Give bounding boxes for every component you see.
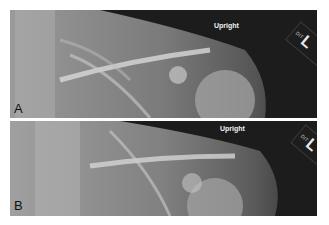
shoulder-xray-image-a [10,10,317,118]
shoulder-xray-image-b [10,121,317,216]
panel-letter: B [14,198,23,213]
xray-panel-b: Upright B DIT L [10,121,317,216]
upright-label: Upright [220,125,245,132]
upright-label: Upright [214,22,239,29]
panel-letter: A [14,101,23,116]
xray-panel-a: Upright A DIT L [10,10,317,118]
